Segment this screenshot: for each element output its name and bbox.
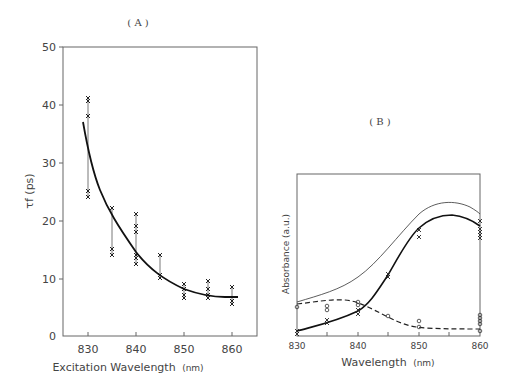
panel-a-label: ( A )	[127, 17, 148, 28]
b-xlabel-unit: (nm)	[413, 358, 435, 368]
a-xtick-860: 860	[222, 343, 243, 356]
panel-b-plot: 830 840 850 860 Wavelength (nm) Absorban…	[281, 174, 489, 369]
a-xtick-830: 830	[78, 343, 99, 356]
b-xtick-850: 850	[410, 341, 427, 351]
a-y-axis-title: τf (ps)	[23, 173, 36, 208]
panel-b-label: ( B )	[369, 116, 391, 127]
panel-a-frame	[63, 47, 257, 336]
panel-b-frame	[297, 174, 480, 336]
panel-a-x-axis	[88, 332, 232, 336]
b-xtick-860: 860	[471, 341, 488, 351]
b-y-axis-title: Absorbance (a.u.)	[281, 214, 291, 294]
panel-a-fit-curve	[83, 122, 238, 297]
b-xtick-840: 840	[349, 341, 366, 351]
panel-a-plot: 50 40 30 20 10 0 830 840 850 860 Excitat…	[23, 41, 257, 374]
a-ytick-50: 50	[42, 41, 56, 54]
figure: ( A ) 50 40 30 20 10 0 830 840 850 860	[0, 0, 513, 386]
a-xlabel-unit: (nm)	[182, 363, 204, 373]
panel-b-total-curve	[297, 202, 480, 302]
panel-b-x-axis	[327, 332, 449, 336]
panel-a-range-bars	[88, 98, 232, 304]
b-xtick-830: 830	[288, 341, 305, 351]
panel-a-y-axis	[59, 47, 63, 279]
a-xlabel-text: Excitation Wavelength	[52, 361, 175, 374]
a-ytick-40: 40	[42, 99, 56, 112]
a-xtick-850: 850	[174, 343, 195, 356]
a-x-axis-title: Excitation Wavelength (nm)	[52, 361, 203, 374]
b-x-axis-title: Wavelength (nm)	[341, 356, 434, 369]
a-ytick-0: 0	[49, 330, 56, 343]
a-ytick-20: 20	[42, 215, 56, 228]
a-xtick-840: 840	[126, 343, 147, 356]
a-ytick-30: 30	[42, 157, 56, 170]
panel-b-x-markers	[295, 219, 482, 336]
a-ytick-10: 10	[42, 273, 56, 286]
panel-b-o-markers	[295, 300, 482, 333]
b-xlabel-text: Wavelength	[341, 356, 406, 369]
